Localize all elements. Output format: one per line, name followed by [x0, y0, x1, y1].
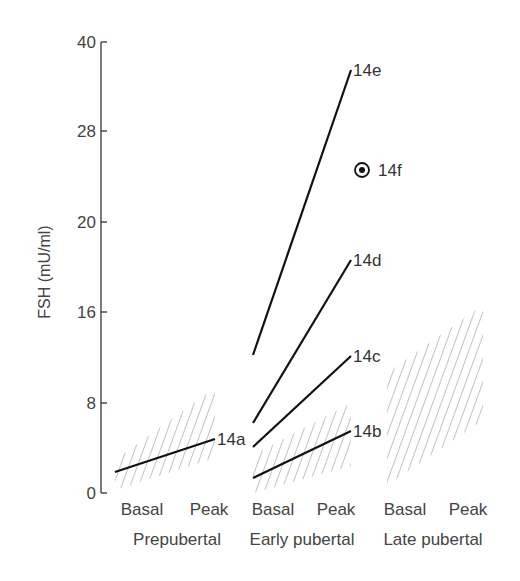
- x-tick-basal-1: Basal: [121, 500, 164, 519]
- prepubertal-range: [115, 388, 215, 490]
- label-14c: 14c: [353, 347, 381, 366]
- y-tick-0: 0: [87, 484, 96, 503]
- y-axis: 40 28 20 16 8 0 FSH (mU/ml): [36, 33, 107, 503]
- point-14f: [355, 163, 369, 177]
- y-tick-8: 8: [87, 394, 96, 413]
- y-axis-label: FSH (mU/ml): [36, 225, 53, 318]
- y-tick-20: 20: [77, 213, 96, 232]
- group-late-pubertal: Late pubertal: [383, 530, 482, 549]
- series-lines: [115, 70, 351, 478]
- x-tick-peak-3: Peak: [449, 500, 488, 519]
- label-14f: 14f: [378, 161, 402, 180]
- label-14a: 14a: [217, 430, 246, 449]
- x-tick-peak-1: Peak: [190, 500, 229, 519]
- x-tick-basal-2: Basal: [252, 500, 295, 519]
- group-early-pubertal: Early pubertal: [250, 530, 355, 549]
- y-tick-16: 16: [77, 303, 96, 322]
- fsh-chart: 40 28 20 16 8 0 FSH (mU/ml) 14a 14b 14c …: [0, 0, 520, 581]
- label-14d: 14d: [353, 251, 381, 270]
- x-tick-peak-2: Peak: [317, 500, 356, 519]
- late-pubertal-range: [387, 305, 483, 485]
- y-tick-28: 28: [77, 122, 96, 141]
- x-axis-labels: Basal Peak Basal Peak Basal Peak Prepube…: [121, 500, 488, 549]
- y-tick-40: 40: [77, 33, 96, 52]
- group-prepubertal: Prepubertal: [133, 530, 221, 549]
- line-14d: [253, 260, 351, 423]
- label-14e: 14e: [353, 61, 381, 80]
- early-pubertal-range: [253, 403, 351, 493]
- x-tick-basal-3: Basal: [384, 500, 427, 519]
- line-14e: [253, 70, 351, 355]
- label-14b: 14b: [353, 422, 381, 441]
